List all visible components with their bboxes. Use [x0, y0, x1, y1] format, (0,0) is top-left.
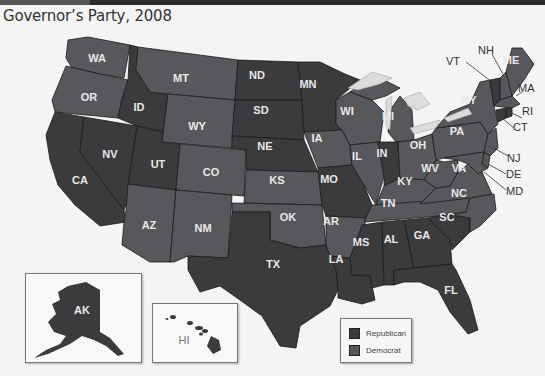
label-NM: NM	[194, 222, 211, 234]
legend-item-republican: Republican	[349, 328, 406, 339]
label-MA: MA	[518, 82, 535, 94]
label-ID: ID	[134, 101, 145, 113]
label-TX: TX	[266, 258, 281, 270]
label-NJ: NJ	[507, 152, 520, 164]
label-MO: MO	[320, 173, 338, 185]
state-RI[interactable]	[506, 108, 512, 118]
label-IL: IL	[352, 150, 362, 162]
label-NC: NC	[451, 187, 467, 199]
label-AZ: AZ	[142, 219, 157, 231]
state-HI[interactable]	[166, 315, 222, 354]
label-WI: WI	[340, 105, 353, 117]
label-VT: VT	[446, 55, 460, 67]
label-RI: RI	[522, 105, 533, 117]
label-TN: TN	[381, 197, 396, 209]
state-HI-shape: HI	[153, 304, 237, 362]
label-OH: OH	[410, 139, 427, 151]
label-ND: ND	[249, 69, 265, 81]
legend-label-democrat: Democrat	[366, 346, 401, 355]
label-NE: NE	[257, 140, 272, 152]
label-MD: MD	[506, 185, 523, 197]
state-ND[interactable]	[235, 60, 302, 100]
label-KS: KS	[269, 174, 284, 186]
label-FL: FL	[444, 284, 458, 296]
label-MT: MT	[173, 72, 189, 84]
label-NY: NY	[461, 94, 477, 106]
label-NV: NV	[102, 148, 118, 160]
label-CT: CT	[513, 121, 528, 133]
legend-swatch-republican	[349, 328, 360, 339]
leader-VT	[466, 62, 492, 82]
label-HI: HI	[179, 334, 190, 346]
label-DE: DE	[506, 168, 521, 180]
label-IN: IN	[377, 147, 388, 159]
label-WA: WA	[88, 52, 106, 64]
label-IA: IA	[312, 132, 323, 144]
label-AK: AK	[74, 304, 90, 316]
label-WV: WV	[421, 162, 439, 174]
legend: Republican Democrat	[340, 318, 412, 363]
label-MN: MN	[299, 78, 316, 90]
label-MS: MS	[353, 236, 370, 248]
label-CO: CO	[203, 166, 220, 178]
label-KY: KY	[397, 175, 413, 187]
label-PA: PA	[450, 125, 465, 137]
label-UT: UT	[151, 158, 166, 170]
label-AR: AR	[323, 215, 339, 227]
inset-alaska: AK	[25, 273, 142, 363]
legend-swatch-democrat	[349, 345, 360, 356]
label-AL: AL	[384, 233, 399, 245]
label-GA: GA	[414, 229, 431, 241]
legend-label-republican: Republican	[366, 329, 406, 338]
leader-DE	[488, 164, 506, 174]
label-NH: NH	[478, 44, 494, 56]
leader-NJ	[494, 148, 508, 156]
label-SD: SD	[253, 104, 268, 116]
label-VA: VA	[452, 162, 467, 174]
label-WY: WY	[188, 120, 206, 132]
state-AK-shape: AK	[26, 274, 141, 362]
label-CA: CA	[72, 174, 88, 186]
label-SC: SC	[439, 211, 454, 223]
label-OK: OK	[280, 211, 297, 223]
leader-NH	[492, 54, 503, 74]
label-LA: LA	[329, 253, 344, 265]
inset-hawaii: HI	[152, 303, 238, 363]
label-ME: ME	[503, 54, 520, 66]
label-OR: OR	[81, 91, 98, 103]
label-MI: MI	[382, 110, 394, 122]
legend-item-democrat: Democrat	[349, 345, 401, 356]
state-AK[interactable]	[34, 282, 124, 358]
